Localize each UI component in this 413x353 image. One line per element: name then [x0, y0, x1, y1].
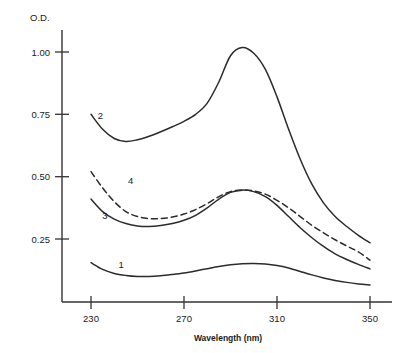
y-tick-label-025: 0.25 — [32, 234, 51, 245]
y-tick-label-075: 0.75 — [32, 109, 51, 120]
curve-1 — [91, 263, 370, 285]
curve-label-1: 1 — [119, 259, 124, 270]
chart-plot-area: O.D. 1.00 0.75 0.50 0.25 230 270 310 350 — [0, 0, 413, 353]
x-tick-label-270: 270 — [176, 313, 192, 324]
curve-label-4: 4 — [128, 175, 133, 186]
x-tick-label-310: 310 — [269, 313, 285, 324]
data-curves-group — [91, 47, 370, 284]
curve-3 — [91, 190, 370, 269]
y-tick-label-050: 0.50 — [32, 171, 51, 182]
y-tick-label-100: 1.00 — [32, 47, 51, 58]
curve-labels-group: 1234 — [98, 110, 134, 269]
curve-2 — [91, 47, 370, 242]
x-tick-label-230: 230 — [83, 313, 99, 324]
x-axis-title: Wavelength (nm) — [194, 333, 262, 343]
od-spectrum-chart: O.D. 1.00 0.75 0.50 0.25 230 270 310 350 — [0, 0, 413, 353]
y-axis-title: O.D. — [30, 12, 50, 23]
x-tick-label-350: 350 — [362, 313, 378, 324]
y-axis-ticks: 1.00 0.75 0.50 0.25 — [32, 47, 70, 245]
curve-label-3: 3 — [102, 210, 107, 221]
curve-label-2: 2 — [98, 110, 103, 121]
x-axis-ticks: 230 270 310 350 — [83, 296, 378, 324]
